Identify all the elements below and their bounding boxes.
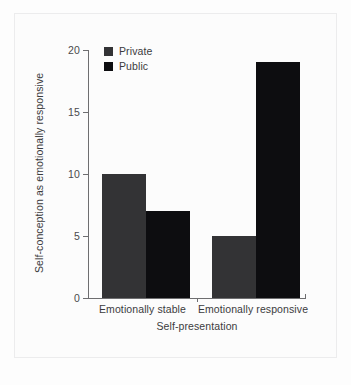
bar-stable-public[interactable] xyxy=(146,211,190,298)
legend-item-public[interactable]: Public xyxy=(104,60,152,73)
figure: 20 15 10 5 0 Private xyxy=(0,0,351,385)
x-axis-title: Self-presentation xyxy=(88,320,306,332)
legend-swatch-private-icon xyxy=(104,47,113,56)
legend: Private Public xyxy=(104,45,152,75)
bar-stable-private[interactable] xyxy=(102,174,146,298)
x-category-label-stable: Emotionally stable xyxy=(88,303,197,315)
bars-layer xyxy=(0,0,351,298)
y-axis-title: Self-conception as emotionally responsiv… xyxy=(33,73,45,273)
bar-responsive-public[interactable] xyxy=(256,62,300,298)
bar-responsive-private[interactable] xyxy=(212,236,256,298)
plot-area: 20 15 10 5 0 Private xyxy=(0,0,351,385)
legend-swatch-public-icon xyxy=(104,62,113,71)
legend-label-public: Public xyxy=(119,61,148,72)
x-group-separator xyxy=(197,298,198,302)
legend-item-private[interactable]: Private xyxy=(104,45,152,58)
x-category-label-responsive: Emotionally responsive xyxy=(197,303,309,315)
legend-label-private: Private xyxy=(119,46,152,57)
